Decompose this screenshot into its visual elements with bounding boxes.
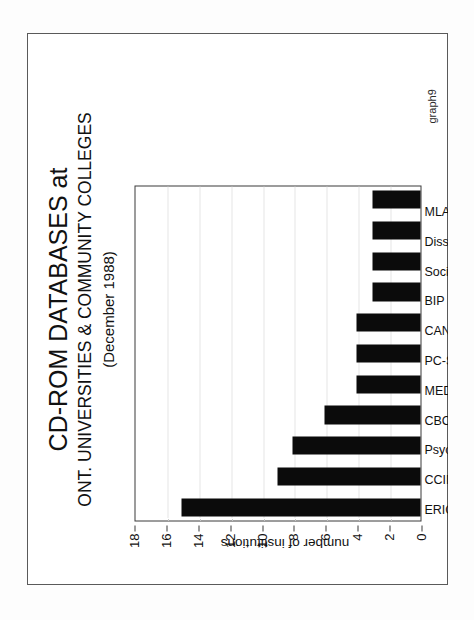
- axis-tick-mark: [325, 525, 326, 531]
- axis-tick-mark: [134, 525, 135, 531]
- category-axis: ERICCCINFOPsycLITCBCAMEDLINEPC-SIGCANSIM…: [422, 185, 448, 521]
- bar: [356, 375, 420, 393]
- axis-tick-mark: [293, 525, 294, 531]
- bar-series: [135, 186, 420, 520]
- category-label: CANSIM/CENSUS: [424, 323, 448, 337]
- category-label: PC-SIG: [424, 353, 448, 367]
- bar: [324, 405, 420, 423]
- category-label: Dissertation Abs.: [424, 234, 448, 248]
- plot-area: [134, 185, 421, 521]
- bar: [277, 467, 421, 485]
- axis-tick-label: 18: [127, 533, 142, 547]
- bar: [372, 282, 420, 300]
- axis-tick-mark: [262, 525, 263, 531]
- bar: [181, 498, 420, 516]
- category-label: BIP Plus: [424, 293, 448, 307]
- chart-subtitle: ONT. UNIVERSITIES & COMMUNITY COLLEGES: [74, 33, 95, 585]
- bar: [356, 313, 420, 331]
- axis-tick-mark: [421, 525, 422, 531]
- category-label: Sociofile: [424, 264, 448, 278]
- bar: [292, 436, 420, 454]
- value-axis: 024681012141618: [134, 525, 421, 585]
- axis-tick-mark: [389, 525, 390, 531]
- axis-tick-mark: [230, 525, 231, 531]
- axis-tick-mark: [166, 525, 167, 531]
- category-label: MLA Bibliography: [424, 204, 448, 218]
- category-label: CBCA: [424, 413, 448, 427]
- bar-chart-figure: CD-ROM DATABASES at ONT. UNIVERSITIES & …: [27, 33, 448, 585]
- chart-title: CD-ROM DATABASES at: [43, 33, 72, 585]
- category-label: PsycLIT: [424, 442, 448, 456]
- category-label: MEDLINE: [424, 383, 448, 397]
- axis-tick-label: 0: [414, 533, 429, 540]
- bar: [372, 190, 420, 208]
- axis-tick-mark: [198, 525, 199, 531]
- bar: [356, 344, 420, 362]
- axis-tick-mark: [357, 525, 358, 531]
- category-label: ERIC: [424, 502, 448, 516]
- rotated-figure-container: CD-ROM DATABASES at ONT. UNIVERSITIES & …: [27, 33, 448, 585]
- graph-annotation: graph9: [425, 89, 437, 123]
- category-label: CCINFO: [424, 472, 448, 486]
- chart-date-note: (December 1988): [99, 33, 116, 585]
- value-axis-label: number of institutions: [155, 536, 415, 551]
- bar: [372, 221, 420, 239]
- bar: [372, 252, 420, 270]
